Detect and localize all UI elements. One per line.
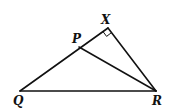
triangle-diagram: X P Q R — [0, 0, 170, 109]
segment-pr — [79, 47, 156, 91]
segment-xr — [108, 28, 156, 91]
label-r: R — [151, 94, 162, 108]
segment-qx — [20, 28, 108, 91]
label-x: X — [100, 13, 111, 27]
label-q: Q — [13, 94, 24, 108]
label-p: P — [71, 32, 82, 46]
